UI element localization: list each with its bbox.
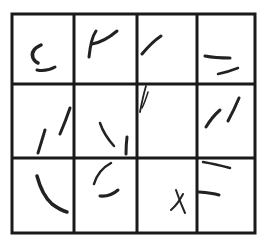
grid-canvas [0, 0, 264, 250]
stroke-grid-image [0, 0, 264, 250]
